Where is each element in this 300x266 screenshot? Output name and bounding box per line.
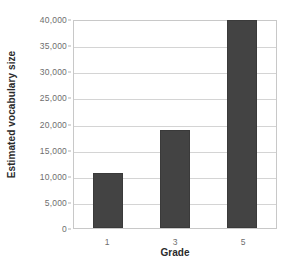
y-axis-tick-label: 35,000 — [40, 41, 67, 51]
y-axis-tick-label: 5,000 — [45, 198, 67, 208]
x-axis-tick-labels: 135 — [73, 231, 277, 247]
y-axis-title: Estimated vocabulary size — [0, 0, 24, 229]
x-axis-tick-label: 3 — [173, 237, 178, 247]
bar-5 — [227, 20, 257, 228]
y-axis-tick-mark — [68, 72, 71, 73]
y-axis-tick-label: 0 — [62, 224, 67, 234]
y-axis-tick-label: 20,000 — [40, 120, 67, 130]
y-axis-tick-label: 25,000 — [40, 93, 67, 103]
bar-slot — [209, 21, 276, 228]
y-axis-tick-mark — [68, 202, 71, 203]
bar-1 — [93, 173, 123, 228]
y-axis-tick-mark — [68, 124, 71, 125]
y-axis-tick-label: 15,000 — [40, 146, 67, 156]
x-axis-tick-label: 5 — [241, 237, 246, 247]
y-axis-tick-mark — [68, 98, 71, 99]
bar-slot — [141, 21, 208, 228]
y-axis-tick-label: 30,000 — [40, 67, 67, 77]
x-axis-tick-label: 1 — [105, 237, 110, 247]
y-axis-tick-label: 40,000 — [40, 15, 67, 25]
y-axis-tick-labels: 05,00010,00015,00020,00025,00030,00035,0… — [24, 0, 71, 240]
bar-3 — [160, 130, 190, 228]
bar-chart: Estimated vocabulary size 05,00010,00015… — [0, 0, 300, 266]
x-axis-title: Grade — [73, 247, 277, 258]
y-axis-tick-label: 10,000 — [40, 172, 67, 182]
x-tick-slot: 3 — [141, 231, 209, 247]
plot-area — [73, 20, 277, 229]
x-tick-slot: 1 — [73, 231, 141, 247]
bar-slot — [74, 21, 141, 228]
y-axis-title-label: Estimated vocabulary size — [7, 51, 18, 179]
x-tick-slot: 5 — [209, 231, 277, 247]
y-axis-tick-mark — [68, 150, 71, 151]
y-axis-tick-mark — [68, 46, 71, 47]
y-axis-tick-mark — [68, 229, 71, 230]
y-axis-tick-mark — [68, 20, 71, 21]
bars-container — [74, 21, 276, 228]
y-axis-tick-mark — [68, 176, 71, 177]
